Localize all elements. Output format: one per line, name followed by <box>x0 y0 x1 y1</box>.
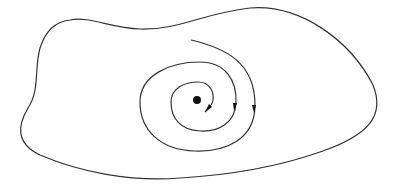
fixed-point <box>193 96 201 104</box>
region-boundary <box>21 8 377 179</box>
spiral-trajectory <box>140 40 255 151</box>
region-diagram <box>0 0 394 192</box>
